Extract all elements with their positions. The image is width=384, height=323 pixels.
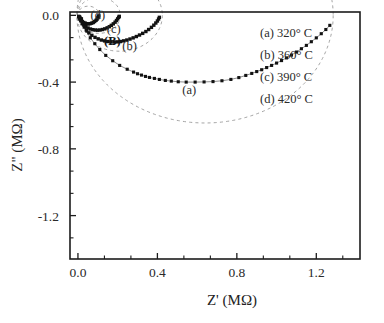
data-point-marker (315, 36, 318, 39)
curve-annotations: (a)(b)(c)(d) (91, 8, 197, 97)
data-point-marker (104, 54, 107, 57)
data-point-marker (90, 34, 93, 37)
legend: (a) 320° C(b) 360° C(c) 390° C(d) 420° C (260, 26, 313, 106)
data-point-marker (100, 38, 103, 41)
x-axis-title: Z' (MΩ) (207, 292, 257, 309)
data-point-marker (153, 77, 156, 80)
data-point-marker (118, 64, 121, 67)
legend-item-b: (b) 360° C (260, 48, 313, 62)
x-tick-label: 0.8 (228, 265, 245, 280)
data-point-marker (244, 74, 247, 77)
data-point-marker (164, 79, 167, 82)
y-tick-label: 0.0 (42, 8, 59, 23)
data-point-marker (132, 71, 135, 74)
data-point-marker (237, 76, 240, 79)
data-point-marker (158, 16, 161, 19)
data-point-marker (305, 44, 308, 47)
data-point-marker (136, 72, 139, 75)
data-point-marker (324, 28, 327, 31)
data-point-marker (140, 74, 143, 77)
data-point-marker (265, 66, 268, 69)
data-point-marker (170, 80, 173, 83)
data-point-marker (138, 33, 141, 36)
data-point-marker (211, 80, 214, 83)
plot-frame (70, 12, 360, 259)
data-point-marker (158, 78, 161, 81)
x-tick-label: 0.0 (70, 265, 87, 280)
data-point-marker (220, 79, 223, 82)
data-point-marker (144, 75, 147, 78)
data-point-marker (126, 68, 129, 71)
x-axis-tick-labels: 0.00.40.81.2 (70, 265, 325, 280)
nyquist-impedance-figure: 0.00.40.81.2 0.0-0.4-0.8-1.2 (a)(b)(c)(d… (0, 0, 384, 323)
data-point-marker (255, 70, 258, 73)
legend-item-a: (a) 320° C (260, 26, 312, 40)
data-point-marker (310, 40, 313, 43)
data-point-marker (203, 80, 206, 83)
data-point-marker (328, 24, 331, 27)
data-point-marker (87, 31, 90, 34)
data-point-marker (98, 48, 101, 51)
data-point-marker (93, 36, 96, 39)
data-point-marker (93, 42, 96, 45)
x-tick-label: 0.4 (149, 265, 166, 280)
panel-label: (B) (104, 34, 121, 48)
data-point-marker (320, 32, 323, 35)
y-axis-title: Z" (MΩ) (9, 118, 26, 172)
curve-label-b: (b) (122, 39, 137, 53)
data-point-marker (141, 32, 144, 35)
data-point-marker (148, 76, 151, 79)
data-point-marker (177, 80, 180, 83)
data-point-marker (111, 59, 114, 62)
curve-label-a: (a) (182, 83, 196, 97)
legend-item-c: (c) 390° C (260, 70, 312, 84)
data-point-marker (270, 64, 273, 67)
data-point-marker (97, 37, 100, 40)
data-point-marker (118, 15, 121, 18)
plot-frame-rect (70, 12, 360, 259)
y-tick-label: -0.8 (38, 142, 60, 157)
legend-item-d: (d) 420° C (260, 92, 313, 106)
y-axis-tick-labels: 0.0-0.4-0.8-1.2 (38, 8, 60, 223)
impedance-plot-svg: 0.00.40.81.2 0.0-0.4-0.8-1.2 (a)(b)(c)(d… (0, 0, 384, 323)
data-point-marker (250, 72, 253, 75)
y-tick-label: -0.4 (38, 75, 60, 90)
data-point-marker (229, 78, 232, 81)
y-tick-label: -1.2 (38, 209, 59, 224)
curve-label-d: (d) (91, 8, 106, 22)
x-tick-label: 1.2 (308, 265, 325, 280)
